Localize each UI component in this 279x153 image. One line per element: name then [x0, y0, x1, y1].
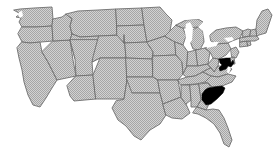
state-new-mexico: [93, 58, 127, 99]
state-rhode-island: [247, 41, 251, 46]
us-map-svg: Map of the United States Maryland South …: [0, 0, 279, 153]
state-missouri: [153, 55, 183, 80]
state-oregon: [18, 26, 53, 43]
state-south-dakota: [117, 25, 147, 43]
state-montana: [66, 9, 117, 37]
state-kansas: [126, 58, 153, 77]
us-map-figure: Map of the United States Maryland South …: [0, 0, 279, 153]
state-north-dakota: [116, 8, 144, 26]
state-oklahoma: [127, 77, 160, 93]
